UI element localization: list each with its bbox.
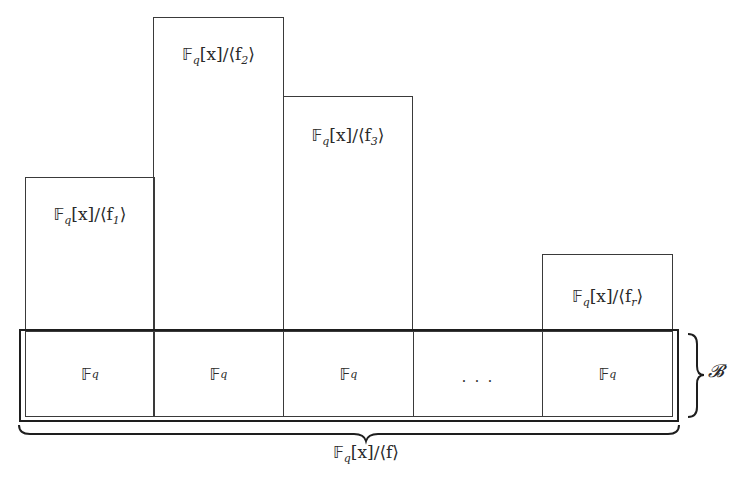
braces-layer [0, 0, 735, 481]
basis-label: 𝓑 [708, 360, 724, 382]
quotient-text: [x]/⟨f⟩ [351, 442, 399, 462]
full-quotient-label: 𝔽q[x]/⟨f⟩ [300, 442, 432, 465]
right-brace-icon [688, 334, 704, 417]
bottom-brace-icon [19, 425, 679, 441]
field-subscript: q [344, 452, 351, 465]
field-symbol: 𝔽 [333, 443, 344, 462]
